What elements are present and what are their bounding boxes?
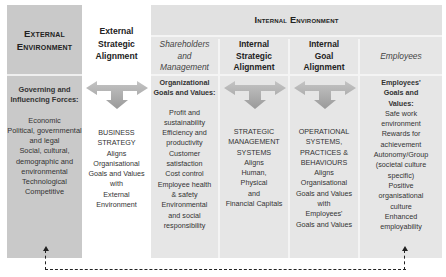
body-line: (societal culture [360,160,442,170]
force-item: Social, cultural, demographic and enviro… [7,146,82,177]
body-line: Safe work [360,109,442,119]
force-item: Competitive [7,187,82,197]
body-line: Customer [151,149,218,159]
body-line: Organisational [290,178,358,188]
body-line: PRACTICES & [290,148,358,158]
body-line: specific) [360,171,442,181]
body-line: Organisational [82,159,151,169]
shareholders-body: Organizational Goals and Values: Profit … [151,78,218,231]
arrow-up-icon [402,246,408,251]
body-line: Enhanced [360,212,442,222]
body-line: Environmental [151,200,218,210]
external-strategic-alignment-body: BUSINESS STRATEGY Aligns Organisational … [82,128,151,210]
body-line: Goals and Values [290,220,358,230]
body-line: Efficiency and [151,128,218,138]
body-line: and [220,189,288,199]
internal-strategic-alignment-header: Internal Strategic Alignment [220,39,288,76]
body-line: sustainability [151,118,218,128]
employees-goals-subtitle: Employees' Goals and Values: [360,78,442,109]
internal-environment-title: Internal Environment [151,5,442,37]
external-environment-title: External Environment [7,5,82,76]
body-line: Goals and Values [290,189,358,199]
body-line: Autonomy/Group [360,150,442,160]
external-forces: Governing and Influencing Forces: Econom… [7,78,82,197]
employees-body: Employees' Goals and Values: Safe work e… [360,78,442,232]
body-line: Positive [360,181,442,191]
force-item: Technological [7,177,82,187]
body-line: Aligns [82,149,151,159]
external-strategic-alignment-title: External Strategic Alignment [82,25,151,63]
org-goals-subtitle: Organizational Goals and Values: [151,78,218,99]
feedback-line-left [45,250,46,270]
body-line: achievement [360,140,442,150]
arrow-up-icon [43,246,49,251]
body-line: environment [360,119,442,129]
body-line: STRATEGIC [220,127,288,137]
body-line: Human, [220,168,288,178]
body-line: SYSTEMS [220,148,288,158]
body-line: & safety [151,190,218,200]
employees-header: Employees [360,39,442,76]
internal-strategic-alignment-body: STRATEGIC MANAGEMENT SYSTEMS Aligns Huma… [220,127,288,209]
shareholders-column: Shareholders and Management Organization… [151,39,220,258]
force-item: Economic [7,116,82,126]
body-line: with [82,179,151,189]
shareholders-header: Shareholders and Management [151,39,218,76]
body-line: responsibility [151,221,218,231]
body-line: SYSTEMS, [290,137,358,147]
three-way-arrow-icon [294,80,356,110]
internal-goal-alignment-header: Internal Goal Alignment [290,39,358,76]
body-line: Goals and Values [82,169,151,179]
force-item: Political, governmental and legal [7,126,82,146]
internal-strategic-alignment-column: Internal Strategic Alignment STRATEGIC M… [220,39,290,258]
body-line: External [82,190,151,200]
feedback-line-right [404,250,405,270]
body-line: OPERATIONAL [290,127,358,137]
body-line: Profit and [151,108,218,118]
body-line: and social [151,211,218,221]
body-line: MANAGEMENT [220,137,288,147]
body-line: with [290,199,358,209]
internal-goal-alignment-body: OPERATIONAL SYSTEMS, PRACTICES & BEHAVIO… [290,127,358,230]
body-line: Physical [220,178,288,188]
body-line: Aligns [290,168,358,178]
body-line: employability [360,222,442,232]
body-line: Environment [82,200,151,210]
body-line: Rewards for [360,129,442,139]
body-line: productivity [151,138,218,148]
body-line: satisfaction [151,159,218,169]
body-line: organisational [360,191,442,201]
body-line: BEHAVIOURS [290,158,358,168]
body-line: Employee health [151,180,218,190]
body-line: STRATEGY [82,138,151,148]
external-environment-block: External Environment Governing and Influ… [7,5,82,258]
employees-column: Employees Employees' Goals and Values: S… [360,39,442,258]
body-line: Employees' [290,209,358,219]
three-way-arrow-icon [86,80,148,110]
body-line: BUSINESS [82,128,151,138]
body-line: culture [360,202,442,212]
body-line: Aligns [220,158,288,168]
body-line: Financial Capitals [220,199,288,209]
external-forces-subtitle: Governing and Influencing Forces: [7,85,82,106]
external-strategic-alignment-column: External Strategic Alignment BUSINESS ST… [82,5,151,258]
three-way-arrow-icon [224,80,286,110]
body-line: Cost control [151,169,218,179]
internal-goal-alignment-column: Internal Goal Alignment OPERATIONAL SYST… [290,39,360,258]
feedback-line-bottom [45,269,406,270]
internal-environment-block: Internal Environment Shareholders and Ma… [151,5,442,258]
